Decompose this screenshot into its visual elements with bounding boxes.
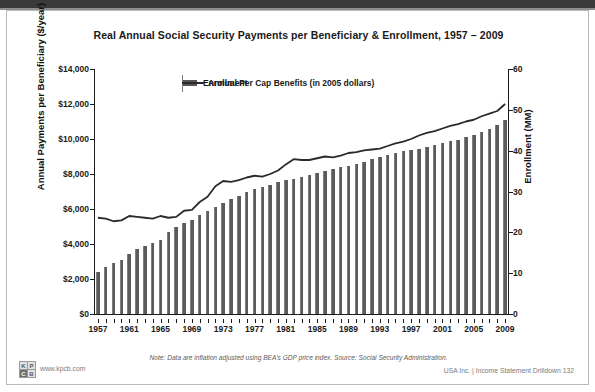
bar-enrollment xyxy=(394,153,398,314)
axis-left-line xyxy=(94,69,95,314)
y-tick-left xyxy=(90,209,94,210)
x-tick xyxy=(302,319,303,323)
x-tick xyxy=(215,319,216,323)
x-tick xyxy=(458,319,459,323)
x-tick-label: 1981 xyxy=(276,324,295,334)
bar-enrollment xyxy=(292,179,296,314)
y-tick-label-left: $12,000 xyxy=(58,99,89,109)
bar-enrollment xyxy=(433,145,437,314)
y-tick-label-left: $14,000 xyxy=(58,64,89,74)
x-tick xyxy=(309,319,310,323)
bar-enrollment xyxy=(96,272,100,314)
bar-enrollment xyxy=(245,192,249,314)
bar-enrollment xyxy=(339,167,343,314)
x-tick-label: 1957 xyxy=(88,324,107,334)
x-tick xyxy=(427,319,428,323)
x-tick xyxy=(247,319,248,323)
bar-enrollment xyxy=(362,162,366,314)
x-tick xyxy=(192,319,193,323)
bar-enrollment xyxy=(120,260,124,314)
bar-enrollment xyxy=(402,151,406,314)
y-tick-left xyxy=(90,244,94,245)
logo-cell-c: C xyxy=(20,370,27,377)
x-tick xyxy=(411,319,412,323)
x-tick xyxy=(270,319,271,323)
x-tick xyxy=(223,319,224,323)
bar-enrollment xyxy=(190,220,194,314)
y-tick-label-right: 20 xyxy=(513,227,522,237)
x-tick xyxy=(317,319,318,323)
x-tick-label: 1961 xyxy=(120,324,139,334)
logo-cell-p: P xyxy=(28,362,35,369)
x-tick-label: 2005 xyxy=(464,324,483,334)
x-tick-label: 1993 xyxy=(370,324,389,334)
bar-enrollment xyxy=(104,267,108,314)
y-axis-right: 0102030405060 xyxy=(513,69,553,314)
bar-enrollment xyxy=(323,171,327,314)
bar-enrollment xyxy=(347,166,351,314)
bar-enrollment xyxy=(237,196,241,314)
y-axis-right-title: Enrollment (MM) xyxy=(522,77,533,217)
x-tick xyxy=(98,319,99,323)
y-tick-right xyxy=(509,314,513,315)
chart-legend: Enrollment Annual Per Cap Benefits (in 2… xyxy=(182,75,482,92)
legend-line-swatch-icon xyxy=(182,82,204,84)
x-tick xyxy=(114,319,115,323)
bar-enrollment xyxy=(127,254,131,314)
y-tick-label-right: 0 xyxy=(513,309,518,319)
x-tick-label: 1997 xyxy=(402,324,421,334)
kpcb-url-link[interactable]: www.kpcb.com xyxy=(40,365,85,372)
x-tick-label: 2001 xyxy=(433,324,452,334)
y-tick-label-right: 10 xyxy=(513,268,522,278)
bar-enrollment xyxy=(221,203,225,314)
x-tick xyxy=(161,319,162,323)
x-tick xyxy=(497,319,498,323)
x-tick xyxy=(466,319,467,323)
bar-enrollment xyxy=(441,143,445,314)
x-tick xyxy=(442,319,443,323)
y-tick-label-left: $4,000 xyxy=(63,239,89,249)
y-tick-left xyxy=(90,69,94,70)
x-tick xyxy=(325,319,326,323)
bar-enrollment xyxy=(214,207,218,314)
x-tick xyxy=(294,319,295,323)
bar-enrollment xyxy=(495,125,499,314)
plot-area xyxy=(94,69,509,314)
x-tick-label: 1977 xyxy=(245,324,264,334)
slide-page: Real Annual Social Security Payments per… xyxy=(6,10,589,385)
bar-enrollment xyxy=(268,185,272,314)
x-tick xyxy=(403,319,404,323)
x-tick xyxy=(388,319,389,323)
y-axis-left-title: Annual Payments per Beneficiary ($/year) xyxy=(35,0,46,222)
bar-enrollment xyxy=(229,199,233,314)
bar-enrollment xyxy=(378,157,382,314)
x-tick xyxy=(419,319,420,323)
bar-enrollment xyxy=(355,164,359,314)
x-tick xyxy=(184,319,185,323)
bar-enrollment xyxy=(370,159,374,314)
x-tick xyxy=(176,319,177,323)
x-tick-label: 2009 xyxy=(496,324,515,334)
x-tick xyxy=(137,319,138,323)
y-tick-label-left: $6,000 xyxy=(63,204,89,214)
y-tick-right xyxy=(509,110,513,111)
x-tick xyxy=(364,319,365,323)
y-tick-left xyxy=(90,174,94,175)
y-tick-label-left: $8,000 xyxy=(63,169,89,179)
bar-enrollment xyxy=(503,120,507,314)
bar-enrollment xyxy=(135,249,139,314)
logo-cell-b: B xyxy=(28,370,35,377)
x-tick xyxy=(489,319,490,323)
y-tick-right xyxy=(509,69,513,70)
y-tick-left xyxy=(90,139,94,140)
y-tick-right xyxy=(509,232,513,233)
bar-enrollment xyxy=(456,140,460,314)
kpcb-logo-icon: K P C B xyxy=(19,361,36,378)
x-tick xyxy=(341,319,342,323)
x-tick xyxy=(395,319,396,323)
bar-enrollment xyxy=(284,180,288,314)
x-tick xyxy=(482,319,483,323)
x-tick xyxy=(380,319,381,323)
bar-enrollment xyxy=(151,243,155,314)
x-tick xyxy=(505,319,506,323)
